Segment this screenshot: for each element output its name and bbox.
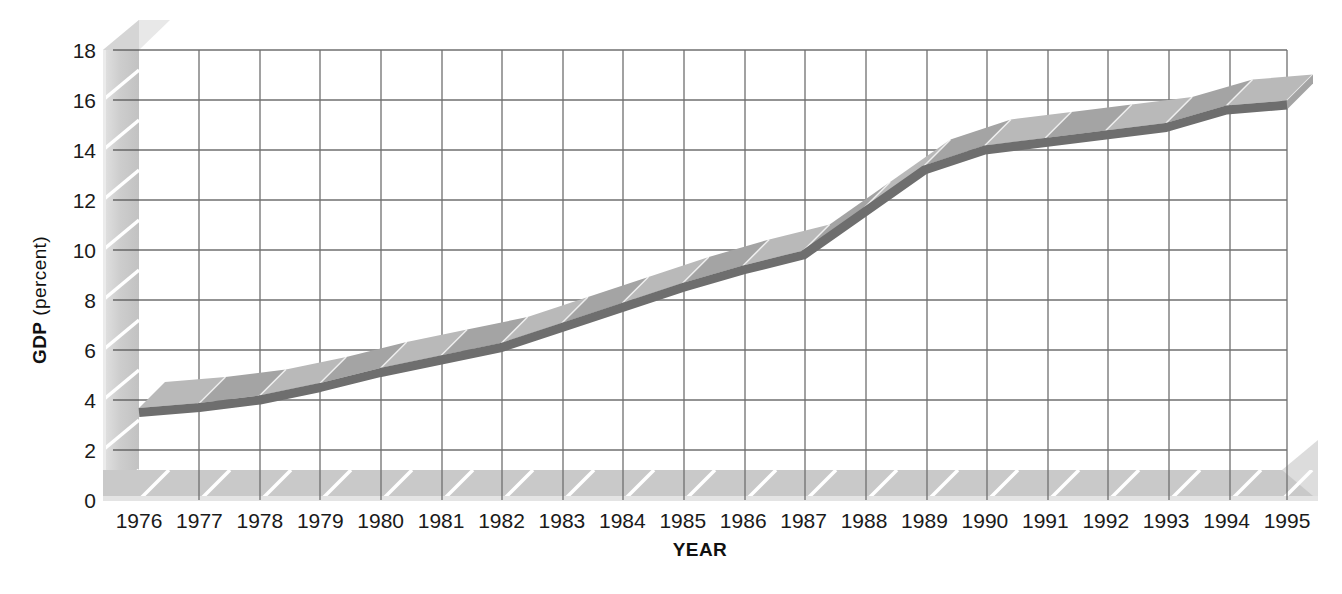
- x-tick-label: 1977: [176, 509, 223, 532]
- y-axis-title-text: GDP(percent): [29, 236, 50, 364]
- x-axis-3d-slab: [103, 440, 1318, 501]
- chart-canvas: 024681012141618 197619771978197919801981…: [0, 0, 1342, 594]
- y-tick-label: 2: [84, 439, 96, 462]
- x-tick-label: 1985: [659, 509, 706, 532]
- x-tick-label: 1994: [1203, 509, 1250, 532]
- x-tick-label: 1993: [1143, 509, 1190, 532]
- y-tick-label: 12: [73, 189, 96, 212]
- x-tick-label: 1989: [901, 509, 948, 532]
- x-tick-label: 1987: [780, 509, 827, 532]
- y-tick-label: 8: [84, 289, 96, 312]
- x-tick-label: 1991: [1022, 509, 1069, 532]
- y-tick-label: 10: [73, 239, 96, 262]
- y-tick-label: 0: [84, 489, 96, 512]
- x-axis-title-text: YEAR: [673, 539, 727, 560]
- x-tick-label: 1976: [116, 509, 163, 532]
- x-tick-label: 1982: [478, 509, 525, 532]
- y-tick-label: 14: [73, 139, 97, 162]
- x-tick-label: 1988: [841, 509, 888, 532]
- x-tick-label: 1980: [357, 509, 404, 532]
- y-tick-label: 16: [73, 89, 96, 112]
- y-tick-label: 18: [73, 39, 96, 62]
- x-tick-label: 1978: [236, 509, 283, 532]
- y-tick-label: 6: [84, 339, 96, 362]
- gdp-line-chart: 024681012141618 197619771978197919801981…: [0, 0, 1342, 594]
- x-tick-label: 1981: [418, 509, 465, 532]
- x-tick-label: 1983: [539, 509, 586, 532]
- y-axis-title: GDP(percent): [29, 236, 50, 364]
- y-axis-tick-labels: 024681012141618: [73, 39, 97, 512]
- x-tick-label: 1995: [1264, 509, 1311, 532]
- x-axis-tick-labels: 1976197719781979198019811982198319841985…: [116, 509, 1311, 532]
- y-tick-label: 4: [84, 389, 96, 412]
- x-tick-label: 1990: [962, 509, 1009, 532]
- x-tick-label: 1984: [599, 509, 646, 532]
- x-axis-title: YEAR: [673, 539, 727, 560]
- x-tick-label: 1992: [1082, 509, 1129, 532]
- x-tick-label: 1986: [720, 509, 767, 532]
- x-tick-label: 1979: [297, 509, 344, 532]
